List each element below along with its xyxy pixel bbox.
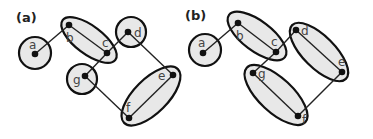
node-label-c: c [102,36,109,50]
panel-a: (a) a b c d e f g [16,9,190,135]
node-d [125,29,132,36]
node-label-g: g [258,67,266,81]
panel-a-label: (a) [16,10,37,25]
edge-e-f [298,72,342,116]
node-b [235,20,242,27]
node-label-d: d [134,26,142,40]
clustering-diagram: (a) a b c d e f g (b) [0,0,373,139]
node-label-a: a [198,36,205,50]
node-b [66,22,73,29]
node-g [250,70,257,77]
node-c [104,50,111,57]
node-e [170,72,177,79]
node-label-b: b [236,29,244,43]
node-c [273,49,280,56]
node-label-e: e [158,69,165,83]
node-e [339,69,346,76]
group-de [281,14,357,90]
node-label-a: a [29,38,36,52]
node-f [126,115,133,122]
group-bc [220,3,294,69]
panel-b-label: (b) [185,8,206,23]
node-d [293,27,300,34]
edge-g-f [85,76,129,118]
node-label-b: b [66,31,74,45]
node-g [82,73,89,80]
node-f [295,113,302,120]
panel-b: (b) a b c d e f g [185,3,357,135]
node-label-c: c [271,35,278,49]
node-label-e: e [338,55,345,69]
node-a [200,50,207,57]
node-label-d: d [301,24,309,38]
node-label-g: g [73,73,81,87]
